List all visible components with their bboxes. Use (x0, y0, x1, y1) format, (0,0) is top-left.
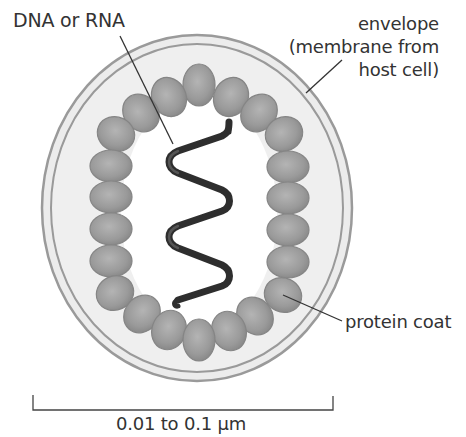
protein-coat-label: protein coat (345, 310, 451, 333)
scale-label: 0.01 to 0.1 µm (0, 412, 362, 435)
envelope-label: envelope (membrane from host cell) (289, 12, 439, 81)
envelope-label-line1: envelope (289, 12, 439, 35)
dna-or-rna-label: DNA or RNA (13, 9, 125, 32)
virus-diagram: DNA or RNA envelope (membrane from host … (0, 0, 466, 437)
envelope-label-line3: host cell) (289, 58, 439, 81)
scale-bar (33, 395, 333, 410)
envelope-label-line2: (membrane from (289, 35, 439, 58)
